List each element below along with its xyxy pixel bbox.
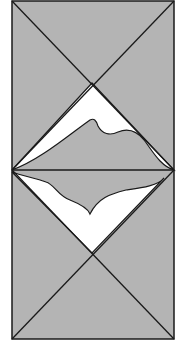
fold-diagram bbox=[0, 0, 184, 344]
